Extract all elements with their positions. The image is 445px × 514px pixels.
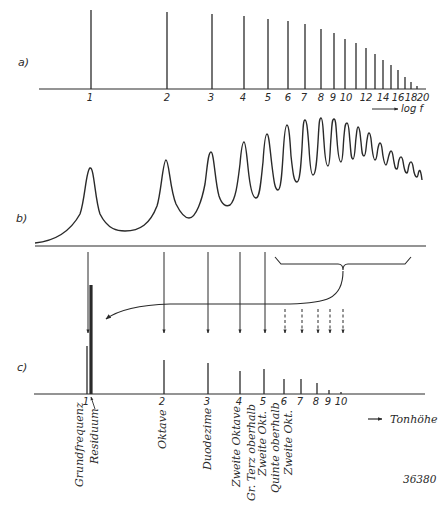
panel-c-label: c): [17, 361, 27, 374]
panel-a-axis-label: log f: [401, 103, 424, 114]
panel-b: b): [16, 118, 426, 246]
label-zweite-oktave: Zweite Oktave: [230, 406, 243, 488]
tick-label: 4: [236, 396, 242, 407]
panel-c-axis-label: Tonhöhe: [390, 413, 438, 426]
tick-label: 8: [318, 92, 324, 103]
brace-icon: [275, 257, 411, 270]
label-residuum: Residuum: [88, 408, 101, 465]
label-duodezime: Duodezime: [201, 407, 214, 471]
tick-label: 16: [392, 92, 405, 103]
tick-label: 7: [301, 92, 308, 103]
panel-c: c) 1 2 3 4 5 6 7 8 9 10: [17, 285, 438, 501]
tick-label: 14: [377, 92, 390, 103]
tick-label: 10: [335, 396, 348, 407]
pitch-bars: [87, 285, 341, 394]
tick-label: 2: [164, 92, 170, 103]
excitation-curve: [35, 118, 422, 243]
tick-label: 1: [87, 92, 93, 103]
panel-b-label: b): [16, 212, 27, 225]
curved-arrow-icon: [106, 271, 343, 319]
harmonic-names: Grundfrequenz Residuum Oktave Duodezime …: [73, 402, 295, 501]
tick-label: 9: [325, 396, 331, 407]
tick-label: 8: [313, 396, 319, 407]
tick-label: 12: [360, 92, 373, 103]
tick-label: 9: [330, 92, 336, 103]
tick-label: 2: [159, 396, 165, 407]
label-quinte: Quinte oberhalb: [269, 402, 282, 493]
tick-label: 7: [297, 396, 304, 407]
panel-a-ticks: 1 2 3 4 5 6 7 8 9 10 12 14 16 18 20: [87, 92, 430, 103]
tick-label: 5: [260, 396, 266, 407]
label-zweite-okt-2: Zweite Okt.: [282, 410, 295, 476]
label-zweite-okt-1: Zweite Okt.: [256, 411, 269, 477]
harmonic-lines: [91, 10, 417, 89]
tick-label: 6: [285, 92, 291, 103]
tick-label: 4: [240, 92, 246, 103]
tick-label: 20: [417, 92, 430, 103]
tick-label: 5: [265, 92, 271, 103]
tick-label: 18: [405, 92, 418, 103]
label-oktave: Oktave: [156, 409, 169, 449]
label-grundfrequenz: Grundfrequenz: [73, 402, 86, 487]
panel-a: a) 1 2 3 4 5: [18, 10, 429, 114]
tick-label: 10: [340, 92, 353, 103]
tick-label: 3: [204, 396, 210, 407]
residuum-pointer-icon: [91, 397, 95, 409]
figure: a) 1 2 3 4 5: [0, 0, 445, 514]
mapping-arrows: [88, 252, 411, 333]
panel-a-label: a): [18, 56, 29, 69]
panel-c-ticks: 1 2 3 4 5 6 7 8 9 10: [83, 396, 348, 407]
tick-label: 3: [208, 92, 214, 103]
figure-number: 36380: [403, 473, 437, 485]
